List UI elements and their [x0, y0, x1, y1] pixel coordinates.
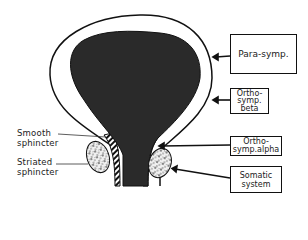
- box-somatic-system: Somatic system: [230, 166, 282, 193]
- box-ortho-beta-text: Ortho- symp. beta: [237, 90, 263, 113]
- box-ortho-symp-beta: Ortho- symp. beta: [230, 88, 269, 114]
- box-ortho-alpha-text: Ortho- symp.alpha: [233, 138, 280, 155]
- label-striated-sphincter: Striated sphincter: [17, 157, 59, 177]
- box-ortho-symp-alpha: Ortho- symp.alpha: [230, 136, 282, 156]
- label-smooth-sphincter: Smooth sphincter: [17, 128, 59, 148]
- box-para-symp-text: Para-symp.: [238, 50, 288, 59]
- box-para-symp: Para-symp.: [230, 34, 297, 74]
- box-somatic-text: Somatic system: [240, 171, 272, 189]
- somatic-arrow: [175, 169, 230, 178]
- ortho-alpha-arrow: [162, 145, 230, 146]
